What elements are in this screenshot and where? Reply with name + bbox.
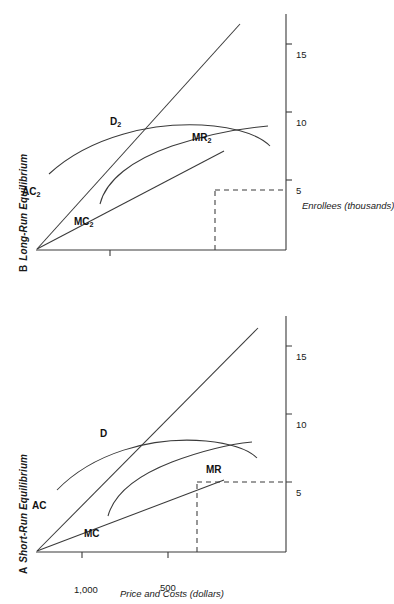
panel-a-label-mr: MR (206, 464, 222, 475)
panel-b-label-d2-sub: 2 (117, 120, 121, 129)
panel-a-marginal-revenue-curve (37, 480, 224, 551)
panel-a-xtick-label-15: 15 (296, 351, 307, 362)
panel-a-label-ac: AC (32, 500, 46, 511)
panel-long-run-equilibrium: BLong-Run Equilibrium (0, 0, 336, 302)
panel-a-marginal-cost-curve (108, 442, 252, 516)
panel-a-plot (0, 302, 336, 604)
panel-b-label-mr2-text: MR (192, 132, 208, 143)
panel-a-xtick-label-10: 10 (296, 419, 307, 430)
panel-b-label-mc2-sub: 2 (90, 220, 94, 229)
panel-b-xtick-label-15: 15 (296, 49, 307, 60)
panel-b-marginal-cost-curve (100, 126, 268, 204)
x-axis-title: Enrollees (thousands) (302, 200, 394, 211)
panel-a-label-mc: MC (84, 528, 100, 539)
panel-b-plot (0, 0, 336, 302)
panel-b-xtick-label-10: 10 (296, 117, 307, 128)
panel-a-demand-curve (37, 328, 258, 551)
panel-b-xtick-label-5: 5 (296, 185, 301, 196)
panel-a-xtick-label-5: 5 (296, 487, 301, 498)
panel-b-label-mc2-text: MC (74, 216, 90, 227)
panel-b-label-mc2: MC2 (74, 216, 94, 227)
panel-short-run-equilibrium: AShort-Run Equilibrium (0, 302, 336, 604)
panel-b-average-cost-curve (49, 125, 270, 174)
panel-a-label-d: D (100, 428, 107, 439)
y-axis-title: Price and Costs (dollars) (120, 588, 224, 599)
panel-b-label-mr2: MR2 (192, 132, 212, 143)
panel-b-label-ac2-text: AC (22, 186, 36, 197)
panel-b-label-ac2-sub: 2 (36, 190, 40, 199)
panel-a-average-cost-curve (57, 440, 257, 490)
panel-b-label-ac2: AC2 (22, 186, 40, 197)
panel-b-label-mr2-sub: 2 (208, 136, 212, 145)
panel-a-ytick-label-1000: 1,000 (74, 584, 98, 595)
panel-b-label-d2: D2 (110, 116, 121, 127)
